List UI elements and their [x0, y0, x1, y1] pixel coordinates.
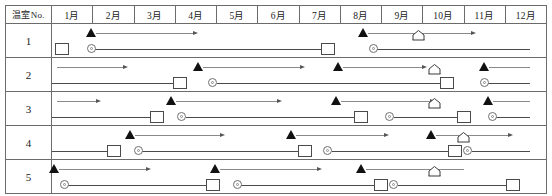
schedule-track-row-4 — [52, 126, 547, 160]
square-marker — [321, 43, 335, 55]
circle-marker — [87, 44, 96, 53]
triangle-marker — [483, 96, 493, 105]
square-marker — [457, 111, 471, 123]
header-month-3: 3月 — [134, 6, 175, 24]
square-marker — [173, 77, 187, 89]
header-month-8: 8月 — [340, 6, 381, 24]
track-area — [52, 126, 546, 159]
schedule-bar-line — [377, 49, 529, 50]
arrow-head-icon — [300, 65, 305, 69]
row-label-greenhouse-4: 4 — [6, 126, 52, 160]
header-month-10: 10月 — [423, 6, 464, 24]
square-marker — [440, 77, 454, 89]
schedule-bar-line — [332, 151, 456, 152]
schedule-bar-line — [142, 151, 305, 152]
table-row: 4 — [6, 126, 547, 160]
triangle-marker — [479, 62, 489, 71]
greenhouse-icon — [412, 27, 425, 39]
arrow-head-icon — [123, 65, 128, 69]
circle-marker — [480, 78, 489, 87]
schedule-bar-line — [472, 151, 530, 152]
circle-marker — [177, 112, 186, 121]
schedule-arrow-line — [176, 101, 278, 102]
schedule-track-row-2 — [52, 58, 547, 92]
row-label-greenhouse-3: 3 — [6, 92, 52, 126]
schedule-arrow-line — [220, 169, 318, 170]
row-label-greenhouse-2: 2 — [6, 58, 52, 92]
schedule-bar-line — [68, 185, 212, 186]
triangle-marker — [166, 96, 176, 105]
arrow-head-icon — [508, 133, 513, 137]
schedule-bar-line — [488, 83, 529, 84]
table-header: 温室No. 1月2月3月4月5月6月7月8月9月10月11月12月 — [6, 6, 547, 24]
schedule-bar-line — [52, 151, 114, 152]
schedule-arrow-line — [296, 135, 386, 136]
square-marker — [150, 111, 164, 123]
square-marker — [374, 179, 388, 191]
header-row: 温室No. 1月2月3月4月5月6月7月8月9月10月11月12月 — [6, 6, 547, 24]
triangle-marker — [210, 164, 220, 173]
table-body: 12345 — [6, 24, 547, 194]
square-marker — [298, 145, 312, 157]
gantt-chart-container: 温室No. 1月2月3月4月5月6月7月8月9月10月11月12月 12345 — [5, 5, 547, 191]
greenhouse-icon — [457, 129, 470, 141]
schedule-arrow-line — [135, 135, 221, 136]
table-row: 2 — [6, 58, 547, 92]
triangle-marker — [125, 130, 135, 139]
header-month-11: 11月 — [464, 6, 505, 24]
schedule-bar-line — [217, 83, 448, 84]
row-label-greenhouse-5: 5 — [6, 160, 52, 194]
square-marker — [506, 179, 520, 191]
arrow-head-icon — [422, 65, 427, 69]
circle-marker — [60, 180, 69, 189]
circle-marker — [134, 146, 143, 155]
circle-marker — [389, 180, 398, 189]
track-area — [52, 24, 546, 57]
schedule-arrow-line — [96, 33, 194, 34]
row-label-greenhouse-1: 1 — [6, 24, 52, 58]
circle-marker — [463, 146, 472, 155]
triangle-marker — [333, 62, 343, 71]
schedule-arrow-line — [343, 67, 422, 68]
header-month-9: 9月 — [382, 6, 423, 24]
square-marker — [55, 43, 69, 55]
triangle-marker — [358, 28, 368, 37]
triangle-marker — [193, 62, 203, 71]
schedule-bar-line — [496, 117, 529, 118]
greenhouse-icon — [428, 163, 441, 175]
circle-marker — [208, 78, 217, 87]
circle-marker — [369, 44, 378, 53]
header-greenhouse-no: 温室No. — [6, 6, 52, 24]
header-month-4: 4月 — [175, 6, 216, 24]
schedule-track-row-1 — [52, 24, 547, 58]
circle-marker — [488, 112, 497, 121]
circle-marker — [233, 180, 242, 189]
track-area — [52, 92, 546, 125]
schedule-bar-line — [95, 49, 328, 50]
greenhouse-icon — [428, 61, 441, 73]
header-month-12: 12月 — [505, 6, 546, 24]
arrow-head-icon — [220, 133, 225, 137]
greenhouse-icon — [428, 95, 441, 107]
schedule-arrow-line — [59, 169, 147, 170]
header-month-5: 5月 — [217, 6, 258, 24]
schedule-bar-line — [186, 117, 361, 118]
table-row: 3 — [6, 92, 547, 126]
table-row: 5 — [6, 160, 547, 194]
square-marker — [354, 111, 368, 123]
table-row: 1 — [6, 24, 547, 58]
schedule-arrow-line — [489, 67, 529, 68]
schedule-bar-line — [52, 83, 180, 84]
schedule-arrow-line — [57, 67, 124, 68]
triangle-marker — [286, 130, 296, 139]
schedule-arrow-line — [436, 135, 509, 136]
circle-marker — [323, 146, 332, 155]
arrow-head-icon — [471, 31, 476, 35]
circle-marker — [385, 112, 394, 121]
arrow-head-icon — [146, 167, 151, 171]
schedule-track-row-3 — [52, 92, 547, 126]
schedule-track-row-5 — [52, 160, 547, 194]
arrow-head-icon — [193, 31, 198, 35]
header-month-2: 2月 — [93, 6, 134, 24]
schedule-bar-line — [241, 185, 381, 186]
